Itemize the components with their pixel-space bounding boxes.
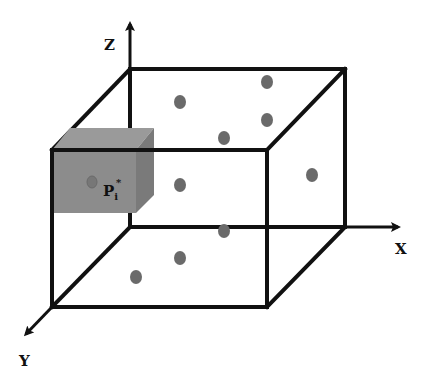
bounding-box-diagram: Z X Y Pi*: [0, 0, 424, 382]
x-axis-label: X: [395, 240, 407, 258]
point: [306, 168, 318, 182]
point: [130, 270, 142, 284]
diagram-canvas: Z X Y Pi*: [0, 0, 424, 382]
top-right-depth-edge: [267, 69, 345, 150]
point: [218, 224, 230, 238]
y-axis-label: Y: [18, 352, 30, 370]
point: [174, 251, 186, 265]
data-points: [130, 75, 318, 284]
y-axis-arrow: [26, 307, 52, 334]
point-p-i: [87, 176, 97, 188]
point: [261, 75, 273, 89]
cube-top-face: [52, 128, 154, 150]
highlight-cube: Pi*: [52, 128, 154, 213]
bottom-right-depth-edge: [267, 227, 345, 307]
point: [261, 113, 273, 127]
point: [218, 131, 230, 145]
bottom-left-depth-edge: [52, 227, 130, 307]
point: [174, 178, 186, 192]
z-axis-label: Z: [104, 36, 115, 54]
point: [174, 95, 186, 109]
